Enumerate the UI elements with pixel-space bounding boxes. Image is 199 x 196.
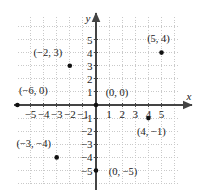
x-axis-tick-label: 1	[106, 109, 112, 120]
x-axis-name-label: x	[187, 91, 192, 102]
point-label: (0, −5)	[109, 166, 138, 177]
data-point	[159, 50, 164, 55]
y-axis-tick-label: 5	[87, 34, 93, 45]
x-axis-tick-label: 3	[133, 109, 139, 120]
y-axis-tick-label: 1	[87, 86, 93, 97]
x-axis-tick-label: −3	[51, 109, 63, 120]
point-label: (−6, 0)	[19, 86, 48, 97]
x-axis-tick-label: −2	[64, 109, 76, 120]
x-axis-tick-label: 4	[146, 109, 152, 120]
data-point	[94, 168, 99, 173]
coordinate-plane-figure: −5−4−3−2−11234554321−1−2−3−4−5(−2, 3)(5,…	[0, 0, 199, 196]
y-axis-tick-label: −2	[81, 126, 93, 137]
point-label: (4, −1)	[137, 127, 166, 138]
data-point	[68, 63, 73, 68]
point-label: (−2, 3)	[33, 47, 62, 58]
y-axis-tick-label: 2	[87, 73, 93, 84]
y-axis-tick-label: −3	[81, 139, 93, 150]
x-axis-tick-label: 2	[119, 109, 125, 120]
x-axis-tick-label: 5	[159, 109, 165, 120]
x-axis-tick-label: −4	[38, 109, 50, 120]
point-label: (−3, −4)	[16, 139, 51, 150]
y-axis-tick-label: −5	[81, 165, 93, 176]
data-point	[54, 155, 59, 160]
point-label: (0, 0)	[106, 88, 129, 99]
y-axis-tick-label: 3	[87, 60, 93, 71]
plot-canvas	[0, 0, 199, 196]
data-point	[15, 103, 20, 108]
y-axis-name-label: y	[86, 13, 91, 24]
y-axis-tick-label: −1	[81, 113, 93, 124]
y-axis-tick-label: −4	[81, 152, 93, 163]
point-label: (5, 4)	[147, 33, 170, 44]
data-point	[94, 103, 99, 108]
y-axis-tick-label: 4	[87, 47, 93, 58]
x-axis-tick-label: −5	[25, 109, 37, 120]
